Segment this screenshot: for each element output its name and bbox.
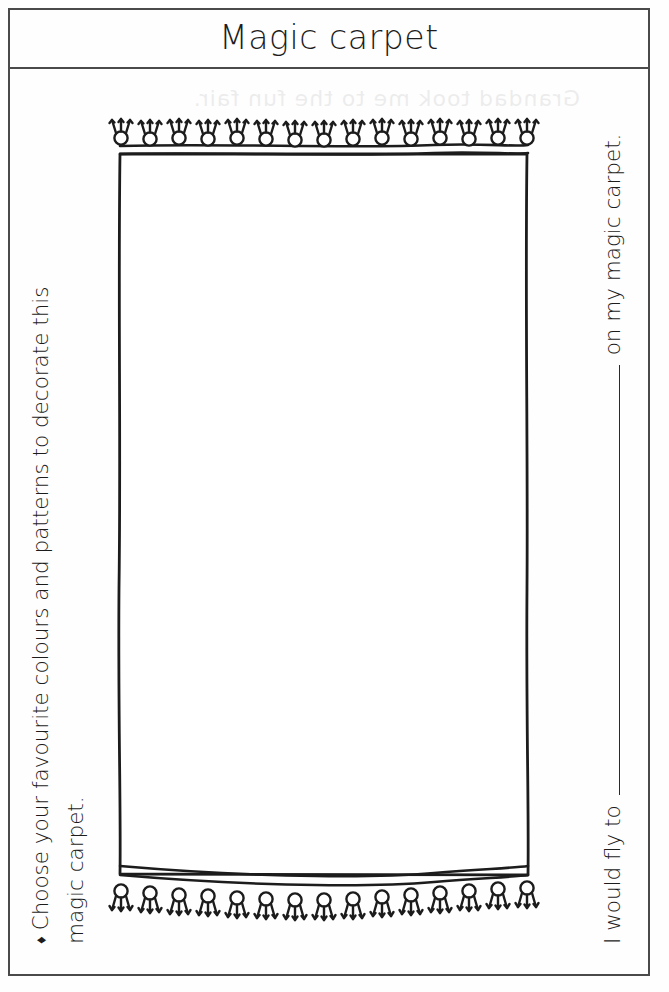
- page-title: Magic carpet: [219, 21, 439, 54]
- magic-carpet-illustration[interactable]: [104, 118, 544, 918]
- worksheet-page: Grandad took me to the fun fair. Magic c…: [0, 0, 669, 992]
- instruction-line-1: ♦Choose your favourite colours and patte…: [24, 286, 59, 944]
- fly-to-prompt: I would fly to on my magic carpet.: [596, 134, 630, 944]
- instruction-line-1-label: Choose your favourite colours and patter…: [28, 286, 53, 930]
- instruction-line-2-label: magic carpet.: [59, 286, 94, 944]
- diamond-bullet-icon: ♦: [29, 936, 53, 944]
- carpet-svg: [104, 118, 544, 918]
- instruction-text: ♦Choose your favourite colours and patte…: [24, 286, 94, 944]
- carpet-fringe-top: [110, 119, 539, 147]
- prompt-after-blank-label: on my magic carpet.: [596, 134, 630, 356]
- answer-blank-line[interactable]: [618, 365, 620, 795]
- title-banner: Magic carpet: [8, 8, 650, 69]
- prompt-before-blank-label: I would fly to: [596, 805, 630, 944]
- carpet-fringe-bottom: [110, 881, 539, 920]
- carpet-body-outline: [119, 154, 528, 875]
